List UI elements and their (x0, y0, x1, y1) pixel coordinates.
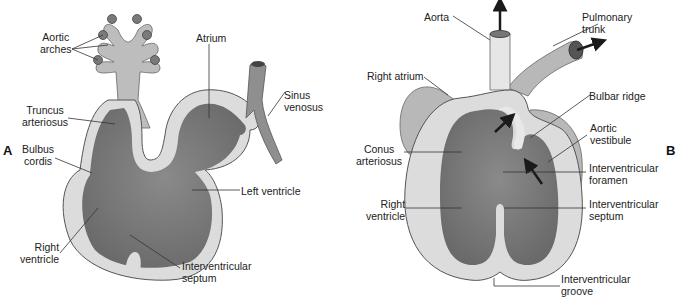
label-pulmonary-trunk: Pulmonary trunk (582, 11, 632, 35)
heart-tube-lumen (82, 104, 246, 268)
label-interventricular-groove: Interventricular groove (561, 273, 630, 297)
label-interventricular-septum-b: Interventricular septum (589, 198, 658, 222)
label-right-ventricle-b: Right ventricle (366, 198, 405, 222)
aorta (490, 34, 510, 90)
label-right-ventricle-a: Right ventricle (20, 241, 59, 265)
label-aorta: Aorta (424, 11, 449, 23)
label-sinus-venosus: Sinus venosus (284, 89, 323, 113)
panel-a-illustration (55, 15, 285, 281)
panel-b-letter: B (666, 143, 675, 158)
panel-b-illustration (400, 4, 600, 286)
label-aortic-vestibule: Aortic vestibule (590, 122, 631, 146)
label-truncus-arteriosus: Truncus arteriosus (22, 104, 68, 128)
label-left-ventricle: Left ventricle (241, 185, 301, 197)
label-interventricular-foramen: Interventricular foramen (589, 162, 658, 186)
label-conus-arteriosus: Conus arteriosus (356, 143, 402, 167)
label-bulbar-ridge: Bulbar ridge (589, 90, 646, 102)
label-interventricular-septum-a: Interventricular septum (182, 260, 251, 284)
panel-a-letter: A (3, 143, 12, 158)
label-bulbus-cordis: Bulbus cordis (22, 143, 54, 167)
label-atrium: Atrium (196, 32, 226, 44)
label-aortic-arches: Aortic arches (40, 31, 72, 55)
label-right-atrium: Right atrium (367, 70, 424, 82)
